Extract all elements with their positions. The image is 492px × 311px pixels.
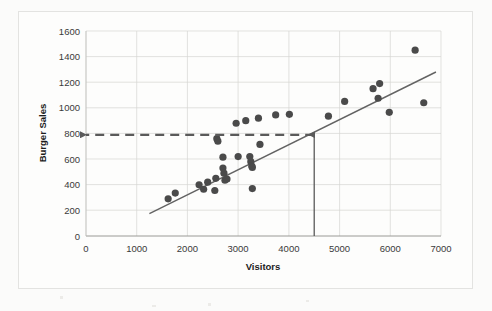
- chart-plot-area: 0 200 400 600 800 1000 1200 1400 1600 0 …: [18, 11, 473, 289]
- y-tick-label: 1600: [59, 26, 80, 37]
- axis-x-tick-labels: 0 1000 2000 3000 4000 5000 6000 7000: [83, 243, 451, 254]
- scatter-point: [223, 175, 230, 182]
- y-axis-title: Burger Sales: [37, 104, 48, 163]
- scatter-point: [211, 187, 218, 194]
- scatter-point: [272, 111, 279, 118]
- scatter-point: [255, 115, 262, 122]
- axis-y-tick-labels: 0 200 400 600 800 1000 1200 1400 1600: [59, 26, 80, 242]
- scatter-point: [235, 153, 242, 160]
- scatter-point: [325, 113, 332, 120]
- x-tick-label: 7000: [430, 243, 451, 254]
- x-tick-label: 3000: [228, 243, 249, 254]
- x-tick-label: 2000: [177, 243, 198, 254]
- scatter-point: [242, 117, 249, 124]
- scatter-point: [219, 154, 226, 161]
- scatter-point: [375, 95, 382, 102]
- paper-speck: [306, 300, 309, 302]
- scatter-point: [386, 109, 393, 116]
- x-tick-label: 4000: [278, 243, 299, 254]
- y-tick-label: 200: [64, 205, 80, 216]
- scatter-point: [420, 99, 427, 106]
- scatter-point: [200, 186, 207, 193]
- x-tick-label: 5000: [329, 243, 350, 254]
- scatter-plot-svg: 0 200 400 600 800 1000 1200 1400 1600 0 …: [19, 12, 474, 290]
- scatter-point: [369, 85, 376, 92]
- y-tick-label: 400: [64, 179, 80, 190]
- scatter-point: [376, 80, 383, 87]
- scatter-point: [412, 47, 419, 54]
- scatter-point: [256, 141, 263, 148]
- scatter-point: [214, 138, 221, 145]
- scatter-point: [204, 179, 211, 186]
- scatter-point: [172, 189, 179, 196]
- y-tick-label: 800: [64, 128, 80, 139]
- scatter-point: [212, 175, 219, 182]
- y-tick-label: 600: [64, 154, 80, 165]
- y-tick-label: 1400: [59, 51, 80, 62]
- y-tick-label: 0: [75, 231, 80, 242]
- scatter-point: [249, 185, 256, 192]
- y-tick-label: 1200: [59, 77, 80, 88]
- x-tick-label: 6000: [380, 243, 401, 254]
- paper-speck: [60, 296, 63, 299]
- scatter-point: [233, 120, 240, 127]
- scatter-point: [286, 111, 293, 118]
- x-tick-label: 0: [83, 243, 88, 254]
- scatter-point: [165, 195, 172, 202]
- chart-figure: 0 200 400 600 800 1000 1200 1400 1600 0 …: [0, 0, 492, 311]
- scatter-point: [249, 164, 256, 171]
- y-tick-label: 1000: [59, 102, 80, 113]
- paper-speck: [208, 303, 211, 306]
- x-tick-label: 1000: [126, 243, 147, 254]
- paper-speck: [152, 305, 156, 307]
- x-axis-title: Visitors: [246, 261, 281, 272]
- scatter-point: [341, 98, 348, 105]
